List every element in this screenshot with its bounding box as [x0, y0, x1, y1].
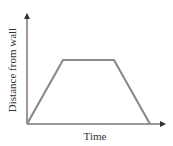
y-axis-label: Distance from wall — [6, 28, 18, 112]
distance-line — [27, 60, 150, 124]
x-axis-label: Time — [84, 130, 107, 142]
distance-time-chart: Time Distance from wall — [0, 0, 173, 146]
